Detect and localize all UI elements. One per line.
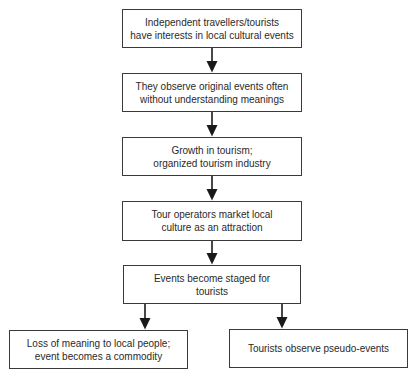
node-label: Tour operators market local culture as a… <box>151 208 272 234</box>
node-label: They observe original events often witho… <box>136 80 289 106</box>
flow-node-loss-of-meaning: Loss of meaning to local people; event b… <box>9 330 188 369</box>
flow-node-growth-in-tourism: Growth in tourism; organized tourism ind… <box>122 137 302 176</box>
node-label: Growth in tourism; organized tourism ind… <box>153 144 270 170</box>
arrow-down-icon <box>206 241 218 265</box>
flow-node-tour-operators-market: Tour operators market local culture as a… <box>122 201 302 241</box>
arrow-down-icon <box>206 176 218 201</box>
arrow-down-icon <box>276 304 288 329</box>
arrow-down-icon <box>139 304 151 330</box>
node-label: Loss of meaning to local people; event b… <box>27 337 170 363</box>
node-label: Tourists observe pseudo-events <box>248 342 389 355</box>
node-label: Events become staged for tourists <box>154 272 270 298</box>
node-label: Independent travellers/tourists have int… <box>130 16 293 42</box>
flow-node-independent-travellers: Independent travellers/tourists have int… <box>122 9 302 48</box>
flow-node-observe-original-events: They observe original events often witho… <box>122 73 302 112</box>
arrow-down-icon <box>206 48 218 73</box>
flow-node-events-staged: Events become staged for tourists <box>123 265 301 304</box>
arrow-down-icon <box>206 112 218 137</box>
flow-node-pseudo-events: Tourists observe pseudo-events <box>229 329 408 368</box>
